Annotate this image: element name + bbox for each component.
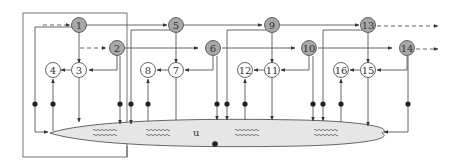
network-diagram: u <box>0 0 464 166</box>
node-15: 15 <box>361 63 376 78</box>
svg-text:2: 2 <box>114 43 120 54</box>
svg-text:14: 14 <box>401 43 414 54</box>
node-4: 4 <box>46 63 61 78</box>
svg-text:6: 6 <box>210 43 216 54</box>
node-7: 7 <box>169 63 184 78</box>
svg-text:11: 11 <box>266 65 279 76</box>
junction-dots <box>32 101 410 106</box>
svg-text:8: 8 <box>145 65 151 76</box>
node-13: 13 <box>361 18 376 33</box>
node-9: 9 <box>265 18 280 33</box>
node-2: 2 <box>110 41 125 56</box>
svg-text:12: 12 <box>239 65 252 76</box>
svg-text:16: 16 <box>335 65 348 76</box>
node-16: 16 <box>334 63 349 78</box>
svg-text:13: 13 <box>362 20 375 31</box>
svg-text:15: 15 <box>362 65 375 76</box>
node-12: 12 <box>238 63 253 78</box>
svg-text:3: 3 <box>76 65 82 76</box>
svg-text:7: 7 <box>173 65 179 76</box>
svg-text:5: 5 <box>173 20 179 31</box>
node-6: 6 <box>206 41 221 56</box>
node-11: 11 <box>265 63 280 78</box>
node-14: 14 <box>400 41 415 56</box>
svg-text:10: 10 <box>303 43 316 54</box>
node-8: 8 <box>141 63 156 78</box>
node-3: 3 <box>72 63 87 78</box>
reservoir-label: u <box>193 127 200 138</box>
svg-text:9: 9 <box>269 20 275 31</box>
node-1: 1 <box>72 18 87 33</box>
node-10: 10 <box>302 41 317 56</box>
node-5: 5 <box>169 18 184 33</box>
svg-text:4: 4 <box>50 65 56 76</box>
svg-text:1: 1 <box>76 20 82 31</box>
reservoir-dot <box>212 141 218 147</box>
